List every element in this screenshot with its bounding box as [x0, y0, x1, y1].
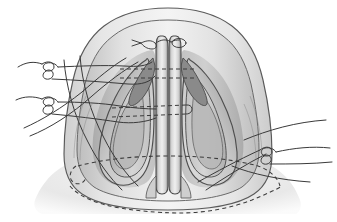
illustration-canvas: Nasal base view with transdomal and inte…	[0, 0, 337, 222]
nasal-base-illustration	[0, 0, 337, 222]
